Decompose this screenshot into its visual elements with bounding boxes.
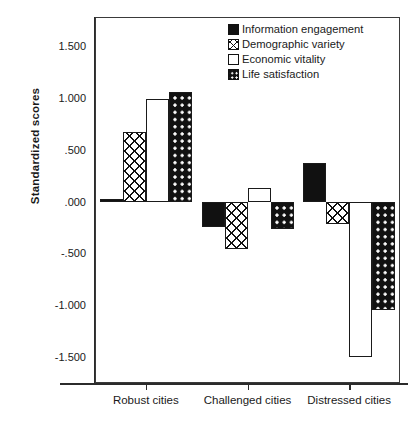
- bar-pattern-dotgrid: [272, 203, 293, 228]
- y-axis-tick-label: 1.000: [38, 92, 86, 103]
- y-axis-tick-label: .500: [38, 144, 86, 155]
- bar-challenged-cities-demographic-variety: [225, 202, 248, 250]
- legend-item-label: Demographic variety: [242, 38, 345, 50]
- bar-distressed-cities-demographic-variety: [326, 202, 349, 225]
- bar-challenged-cities-life-satisfaction: [271, 202, 294, 229]
- bar-distressed-cities-information-engagement: [303, 163, 326, 201]
- bar-pattern-dotgrid: [373, 203, 394, 310]
- y-axis-tick-label: -1.500: [38, 352, 86, 363]
- chart-legend: Information engagementDemographic variet…: [228, 22, 363, 81]
- x-axis-tick-label: Challenged cities: [204, 394, 292, 406]
- bar-challenged-cities-information-engagement: [202, 202, 225, 228]
- legend-swatch-empty-icon: [228, 54, 239, 65]
- bar-pattern-dotgrid: [170, 93, 191, 201]
- y-axis-tick-label: 1.500: [38, 41, 86, 52]
- legend-swatch-dotgrid-icon: [228, 69, 239, 80]
- y-axis-tick-group: 1.5001.000.500.000-.500-1.000-1.500: [30, 0, 86, 429]
- legend-item-label: Life satisfaction: [242, 68, 319, 80]
- bar-robust-cities-life-satisfaction: [169, 92, 192, 202]
- legend-item[interactable]: Life satisfaction: [228, 67, 363, 81]
- y-axis-tick-label: -.500: [38, 248, 86, 259]
- legend-item[interactable]: Information engagement: [228, 22, 363, 36]
- bar-robust-cities-demographic-variety: [123, 132, 146, 201]
- y-axis-tick-label: .000: [38, 196, 86, 207]
- bar-distressed-cities-economic-vitality: [349, 202, 372, 358]
- legend-swatch-solid-icon: [228, 24, 239, 35]
- x-axis-tick-mark: [146, 383, 147, 390]
- x-axis-tick-mark: [248, 383, 249, 390]
- bar-distressed-cities-life-satisfaction: [372, 202, 395, 311]
- x-axis-tick-label: Robust cities: [113, 394, 179, 406]
- x-axis-line: [60, 383, 408, 385]
- legend-item-label: Economic vitality: [242, 53, 325, 65]
- bar-robust-cities-information-engagement: [100, 199, 123, 201]
- bar-challenged-cities-economic-vitality: [248, 188, 271, 201]
- legend-item[interactable]: Economic vitality: [228, 52, 363, 66]
- legend-swatch-crosshatch-icon: [228, 39, 239, 50]
- legend-item[interactable]: Demographic variety: [228, 37, 363, 51]
- legend-pattern-dotgrid: [229, 70, 238, 79]
- x-axis-tick-label: Distressed cities: [307, 394, 391, 406]
- y-axis-tick-label: -1.000: [38, 300, 86, 311]
- legend-item-label: Information engagement: [242, 23, 363, 35]
- x-axis-tick-mark: [349, 383, 350, 390]
- bar-robust-cities-economic-vitality: [146, 99, 169, 202]
